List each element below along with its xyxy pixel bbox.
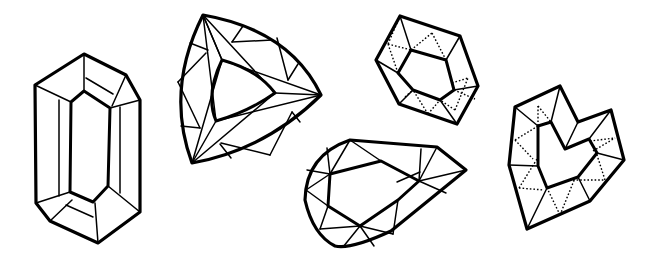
facet-line [515, 107, 538, 126]
facet-line [597, 153, 624, 160]
facet-line [36, 192, 70, 203]
gem-table [212, 60, 275, 121]
facet-line [86, 78, 113, 94]
facet-line [419, 181, 446, 193]
dotted-facet [597, 155, 605, 180]
dotted-facet [590, 138, 615, 141]
gem-outline [376, 16, 478, 124]
facet-line [108, 186, 140, 212]
hexagon-cut-gem: Hexagon cut gem [376, 16, 478, 124]
dotted-facet [428, 100, 440, 114]
dotted-facet [440, 100, 455, 110]
facet-line [277, 38, 288, 80]
dotted-facet [519, 159, 537, 188]
facet-line [232, 40, 272, 42]
facet-line [320, 226, 360, 229]
heart-cut-gem: Heart cut gem [509, 86, 624, 229]
gem-table [70, 91, 110, 202]
facet-line [190, 43, 208, 50]
dotted-facet [593, 138, 615, 151]
facet-line [232, 26, 243, 42]
facet-line [320, 206, 328, 229]
pear-cut-gem: Pear cut gem [305, 140, 466, 247]
gem-table [328, 161, 419, 226]
dotted-facet [519, 188, 544, 190]
facet-line [509, 165, 538, 166]
dotted-facet [388, 16, 400, 44]
gem-outline [181, 15, 321, 163]
dotted-facet [515, 126, 538, 140]
facet-line [400, 16, 411, 50]
gems-illustration: Emerald cut gem Trillion cut gem Hexagon… [0, 0, 653, 270]
gem-table [538, 122, 597, 188]
facet-line [551, 86, 560, 122]
gem-outline [509, 86, 624, 229]
facet-line [35, 85, 71, 102]
facet-line [112, 75, 126, 106]
facet-line [192, 60, 222, 163]
facet-line [178, 53, 206, 82]
facet-line [446, 36, 460, 60]
dotted-facet [515, 140, 533, 159]
trillion-cut-gem: Trillion cut gem [178, 15, 321, 163]
facet-line [66, 205, 93, 217]
dotted-facet [538, 106, 551, 122]
facet-line [95, 203, 98, 243]
facet-line [288, 64, 298, 80]
facet-line [306, 190, 328, 206]
dotted-facet [411, 33, 432, 50]
dotted-facet [547, 188, 560, 215]
emerald-cut-gem: Emerald cut gem [35, 54, 140, 243]
facet-line [419, 147, 437, 181]
facet-line [50, 200, 72, 221]
